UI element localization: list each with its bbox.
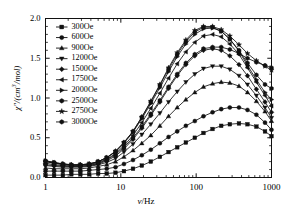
legend-label-1200Oe: 1200Oe: [72, 53, 98, 62]
marker-square: [167, 150, 171, 154]
marker-hexagon: [131, 136, 135, 140]
marker-square: [246, 122, 250, 126]
marker-triangle-left: [184, 50, 188, 54]
marker-circle: [131, 158, 135, 162]
marker-hexagon: [60, 99, 64, 104]
marker-square: [60, 25, 64, 29]
marker-triangle-right: [60, 88, 64, 93]
marker-hexagon: [69, 164, 73, 168]
marker-triangle-down: [201, 67, 205, 71]
marker-circle: [175, 129, 179, 133]
marker-hexagon: [237, 51, 241, 55]
marker-triangle-left: [158, 91, 162, 95]
y-tick-label: 1.0: [15, 93, 41, 103]
marker-circle: [269, 128, 273, 132]
marker-circle: [167, 135, 171, 139]
marker-square: [158, 155, 162, 159]
legend-label-600Oe: 600Oe: [72, 32, 94, 41]
marker-square: [175, 145, 179, 149]
x-tick-label: 1: [26, 182, 66, 192]
marker-hexagon: [96, 161, 100, 165]
marker-circle: [245, 108, 249, 112]
marker-hexagon: [193, 52, 197, 56]
marker-square: [219, 124, 223, 128]
series-600Oe: [43, 106, 273, 174]
marker-triangle-left: [175, 62, 179, 66]
marker-diamond: [59, 67, 64, 72]
marker-hexagon: [122, 145, 126, 149]
marker-square: [114, 171, 118, 175]
marker-hexagon: [167, 85, 171, 89]
marker-circle: [263, 121, 267, 125]
marker-triangle-left: [210, 32, 214, 36]
marker-hexagon: [78, 164, 82, 168]
marker-circle: [149, 148, 153, 152]
marker-hexagon: [158, 98, 162, 102]
marker-triangle-up: [219, 80, 223, 84]
marker-hexagon: [60, 120, 64, 125]
marker-hexagon: [211, 45, 215, 49]
marker-square: [211, 127, 215, 131]
marker-square: [263, 130, 267, 134]
marker-circle: [158, 141, 162, 145]
marker-square: [193, 136, 197, 140]
marker-hexagon: [44, 163, 48, 167]
marker-circle: [237, 106, 241, 110]
marker-hexagon: [219, 45, 223, 49]
y-tick-label: 0.5: [15, 132, 41, 142]
legend-label-300Oe: 300Oe: [72, 22, 94, 31]
marker-circle: [228, 106, 232, 110]
marker-hexagon: [263, 63, 267, 67]
marker-triangle-up: [245, 90, 249, 94]
marker-circle: [105, 167, 109, 171]
y-tick-label: 2.0: [15, 13, 41, 23]
marker-hexagon: [263, 82, 267, 86]
marker-square: [270, 134, 274, 138]
marker-hexagon: [105, 158, 109, 162]
marker-square: [61, 173, 65, 177]
x-axis-label-unit: /Hz: [142, 196, 155, 206]
marker-circle: [122, 162, 126, 166]
marker-hexagon: [114, 152, 118, 156]
legend-label-1500Oe: 1500Oe: [72, 64, 98, 73]
x-tick-label: 100: [176, 182, 216, 192]
marker-triangle-left: [219, 35, 223, 39]
marker-square: [184, 141, 188, 145]
marker-hexagon: [52, 163, 56, 167]
y-axis-label-chi: χ: [12, 107, 22, 111]
x-tick-label: 1000: [252, 182, 292, 192]
marker-hexagon: [270, 86, 274, 90]
marker-hexagon: [175, 72, 179, 76]
marker-hexagon: [270, 66, 274, 70]
marker-hexagon: [254, 73, 258, 77]
marker-circle: [219, 107, 223, 111]
marker-circle: [193, 119, 197, 123]
y-tick-label: 0.0: [15, 172, 41, 182]
marker-hexagon: [254, 60, 258, 64]
marker-circle: [184, 124, 188, 128]
marker-square: [52, 173, 56, 177]
legend-marks-layer: [56, 25, 68, 124]
marker-circle: [211, 110, 215, 114]
marker-hexagon: [87, 163, 91, 167]
marker-hexagon: [140, 124, 144, 128]
marker-square: [105, 172, 109, 176]
x-axis-label: ν/Hz: [0, 196, 292, 206]
marker-square: [96, 172, 100, 176]
marker-circle: [201, 114, 205, 118]
y-axis-label-exponent: 3: [10, 84, 17, 87]
marker-circle: [60, 35, 64, 39]
x-tick-label: 10: [101, 182, 141, 192]
marker-star: [59, 109, 64, 114]
marker-square: [237, 122, 241, 126]
marker-square: [149, 160, 153, 164]
marker-hexagon: [228, 47, 232, 51]
marker-square: [202, 131, 206, 135]
marker-triangle-up: [122, 155, 126, 159]
marker-square: [122, 169, 126, 173]
marker-triangle-up: [193, 90, 197, 94]
marker-diamond: [254, 87, 259, 92]
marker-diamond: [263, 100, 268, 105]
chart-figure: χ″/(cm3/mol) ν/Hz 0.00.51.01.52.0 110100…: [0, 0, 292, 221]
legend-label-900Oe: 900Oe: [72, 43, 94, 52]
